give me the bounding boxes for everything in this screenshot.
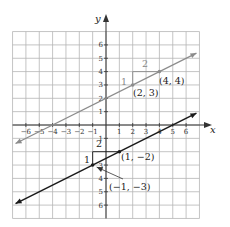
lower-point-1-neg2-label: (1, −2): [121, 151, 155, 162]
x-tick-label: −3: [61, 128, 71, 136]
y-tick-label: 1: [99, 108, 103, 116]
y-tick-label: 6: [99, 41, 104, 49]
x-tick-label: −1: [87, 128, 97, 136]
x-tick-label: −6: [21, 128, 32, 136]
upper-point-2-3-label: (2, 3): [133, 87, 159, 98]
lower-rise-label: 1: [84, 154, 90, 165]
x-axis-label: x: [210, 124, 216, 135]
y-tick-label: 6: [99, 202, 104, 210]
coordinate-plane-chart: −6−5−4−3−2−112345665432113456 y x 1 2 (2…: [0, 0, 230, 227]
x-tick-label: 5: [171, 128, 175, 136]
x-tick-label: 2: [130, 128, 134, 136]
x-tick-label: 3: [144, 128, 148, 136]
upper-rise-label: 1: [121, 76, 127, 87]
upper-point-4-4-label: (4, 4): [159, 75, 185, 86]
y-axis-arrow-icon: [103, 14, 109, 22]
x-tick-label: −2: [74, 128, 84, 136]
y-tick-label: 5: [99, 188, 103, 196]
x-tick-label: 6: [184, 128, 189, 136]
tick-labels: −6−5−4−3−2−112345665432113456: [21, 41, 189, 209]
y-axis-label: y: [94, 13, 101, 24]
lower-run-label: 2: [96, 138, 102, 149]
x-tick-label: −4: [47, 128, 58, 136]
upper-data-point: [158, 70, 162, 74]
upper-run-label: 2: [142, 58, 148, 69]
lower-data-point: [91, 163, 95, 167]
y-tick-label: 3: [99, 81, 103, 89]
y-tick-label: 4: [99, 175, 104, 183]
y-tick-label: 5: [99, 55, 103, 63]
x-tick-label: 1: [117, 128, 121, 136]
y-tick-label: 4: [99, 68, 104, 76]
lower-point-neg1-neg3-label: (−1, −3): [109, 181, 150, 192]
